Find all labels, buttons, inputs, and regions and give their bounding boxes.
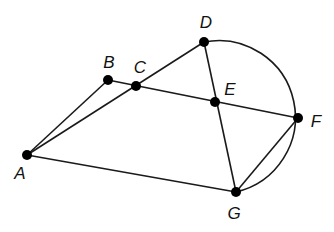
segment-AB [27,80,108,155]
point-E [210,97,220,107]
label-C: C [134,59,146,76]
geometry-diagram: A B C D E F G [0,0,334,232]
label-F: F [311,113,321,130]
segment-DG [204,42,236,192]
point-G [231,187,241,197]
label-B: B [103,54,114,71]
arc-DFG [204,41,295,192]
point-C [131,81,141,91]
label-A: A [14,165,25,182]
segment-AG [27,155,236,192]
label-D: D [200,14,212,31]
label-E: E [224,81,235,98]
diagram-drawing [0,0,334,232]
point-D [199,37,209,47]
segment-AD [27,42,204,155]
segment-GF [236,118,298,192]
point-F [293,113,303,123]
label-G: G [227,205,240,222]
point-A [22,150,32,160]
point-B [103,75,113,85]
